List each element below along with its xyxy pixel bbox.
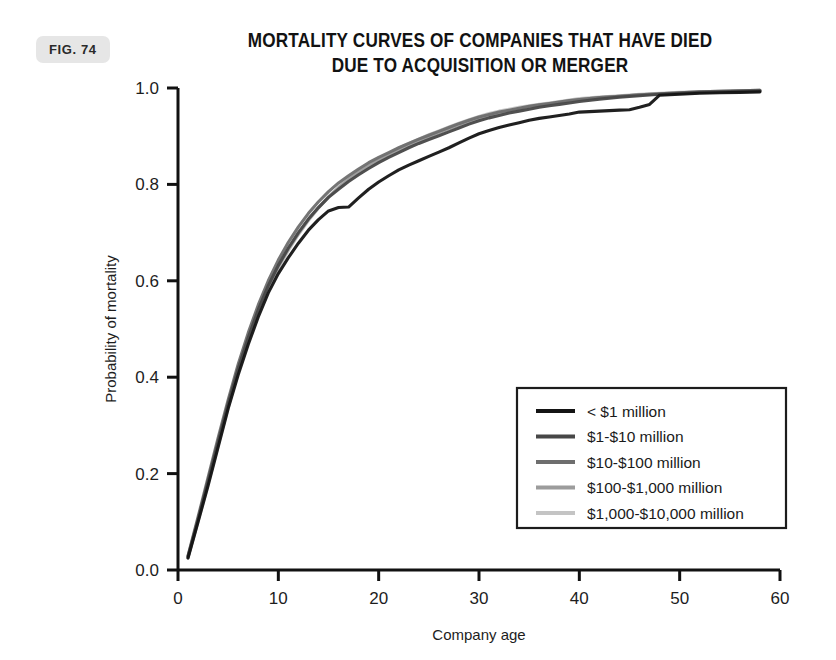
- legend-label: $1-$10 million: [587, 428, 684, 445]
- y-tick-label: 0.0: [135, 561, 159, 580]
- x-tick-label: 40: [570, 589, 589, 608]
- figure-root: FIG. 74 MORTALITY CURVES OF COMPANIES TH…: [0, 0, 836, 660]
- legend-label: < $1 million: [587, 403, 666, 420]
- y-tick-label: 0.4: [135, 368, 159, 387]
- x-tick-label: 60: [771, 589, 790, 608]
- y-tick-label: 0.2: [135, 465, 159, 484]
- x-axis-title: Company age: [432, 626, 525, 643]
- x-tick-label: 0: [173, 589, 182, 608]
- legend-layer: < $1 million$1-$10 million$10-$100 milli…: [517, 388, 786, 528]
- y-tick-label: 1.0: [135, 79, 159, 98]
- x-tick-label: 50: [670, 589, 689, 608]
- chart-plot: 01020304050600.00.20.40.60.81.0Company a…: [0, 0, 836, 660]
- x-tick-label: 10: [269, 589, 288, 608]
- x-tick-label: 30: [470, 589, 489, 608]
- y-tick-label: 0.6: [135, 272, 159, 291]
- y-axis-title: Probability of mortality: [102, 255, 119, 403]
- legend-label: $100-$1,000 million: [587, 479, 722, 496]
- y-tick-label: 0.8: [135, 175, 159, 194]
- x-tick-label: 20: [369, 589, 388, 608]
- axes-layer: 01020304050600.00.20.40.60.81.0Company a…: [102, 79, 789, 643]
- legend-label: $1,000-$10,000 million: [587, 505, 744, 522]
- legend-label: $10-$100 million: [587, 454, 701, 471]
